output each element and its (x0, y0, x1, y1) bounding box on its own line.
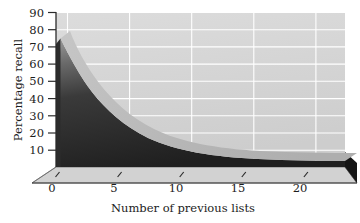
y-tick-label: 50 (29, 74, 44, 88)
y-axis-title: Percentage recall (11, 38, 25, 141)
x-tick-label: 15 (231, 181, 246, 195)
x-tick-label: 20 (293, 181, 308, 195)
x-tick-label: 10 (169, 181, 184, 195)
y-axis-tick-labels: 90 80 70 60 50 40 30 20 10 (29, 6, 44, 158)
y-tick-label: 30 (29, 109, 44, 123)
x-axis-title: Number of previous lists (111, 201, 255, 215)
y-tick-label: 10 (29, 143, 44, 157)
x-tick-label: 5 (110, 181, 117, 195)
y-tick-label: 80 (29, 23, 44, 37)
area-left-edge (56, 39, 61, 168)
x-tick-label: 0 (48, 181, 55, 195)
y-tick-label: 20 (29, 126, 44, 140)
chart-svg: 90 80 70 60 50 40 30 20 10 0 5 10 15 20 (0, 0, 360, 223)
y-tick-label: 90 (29, 6, 44, 20)
chart-figure: 90 80 70 60 50 40 30 20 10 0 5 10 15 20 (0, 0, 360, 223)
y-tick-label: 70 (29, 40, 44, 54)
y-tick-label: 60 (29, 57, 44, 71)
y-tick-label: 40 (29, 92, 44, 106)
chart-floor-3d (32, 167, 357, 183)
